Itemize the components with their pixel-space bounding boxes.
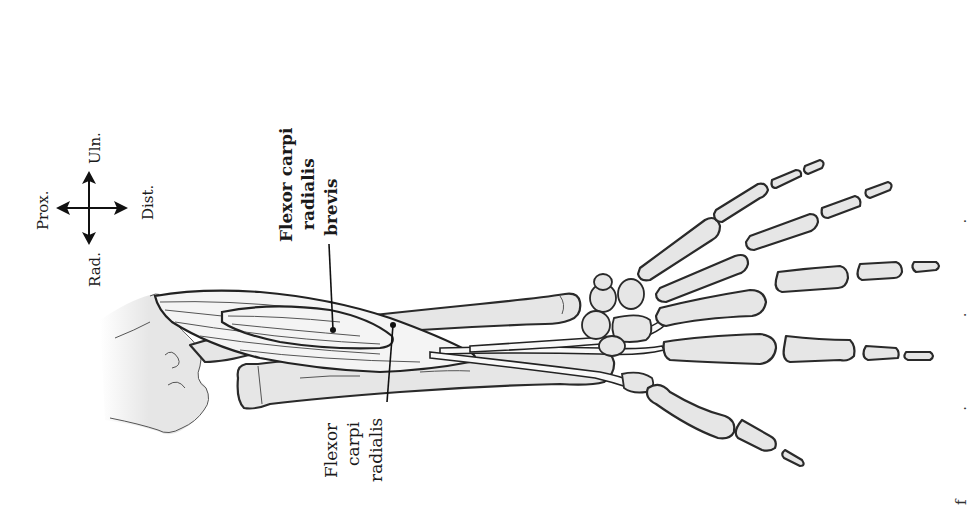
label-fcr-line-1: Flexor — [321, 422, 341, 478]
label-brevis-line-1: Flexor carpi — [276, 127, 296, 242]
phalanx-5-1 — [714, 184, 768, 222]
phalanx-3-3 — [912, 262, 939, 272]
phalanx-1-1 — [736, 420, 776, 451]
carpal-2 — [618, 279, 644, 309]
metacarpal-1 — [647, 385, 734, 439]
compass-label-rad: Rad. — [86, 252, 104, 287]
anatomy-figure: Prox. Uln. Dist. Rad. — [0, 0, 973, 517]
phalanx-4-3 — [866, 182, 892, 198]
phalanx-5-2 — [772, 170, 802, 188]
label-brevis-line-3: brevis — [321, 178, 341, 236]
compass-label-uln: Uln. — [86, 132, 104, 164]
compass-label-dist: Dist. — [139, 185, 157, 220]
forearm-illustration: Prox. Uln. Dist. Rad. — [0, 0, 973, 517]
phalanx-5-3 — [804, 160, 824, 174]
label-fcr-line-3: radialis — [366, 418, 386, 482]
phalanx-1-2 — [782, 450, 803, 466]
metacarpal-2 — [664, 334, 776, 364]
label-brevis-line-2: radialis — [298, 158, 318, 230]
orientation-compass: Prox. Uln. Dist. Rad. — [34, 132, 157, 287]
caption-fragment: f . . . — [952, 177, 970, 505]
digit-2 — [664, 334, 933, 364]
phalanx-4-1 — [746, 214, 818, 250]
digit-1-thumb — [647, 385, 804, 466]
phalanx-3-2 — [858, 262, 903, 280]
leader-dot-fcr — [390, 322, 396, 328]
label-fcr-line-2: carpi — [343, 421, 363, 466]
phalanx-2-3 — [904, 352, 933, 360]
phalanx-2-2 — [864, 346, 899, 360]
carpal-7 — [594, 274, 612, 290]
phalanx-2-1 — [784, 336, 855, 362]
phalanx-4-2 — [822, 196, 861, 218]
carpal-5 — [599, 336, 625, 356]
compass-label-prox: Prox. — [34, 190, 52, 230]
leader-dot-brevis — [330, 327, 336, 333]
phalanx-3-1 — [776, 266, 848, 292]
carpal-3 — [582, 311, 610, 339]
